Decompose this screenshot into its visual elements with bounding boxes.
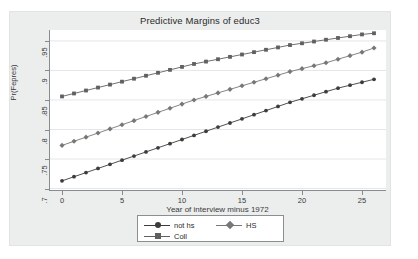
marker-circle-icon xyxy=(276,105,280,109)
x-axis-tick xyxy=(182,191,183,195)
marker-diamond-icon xyxy=(263,76,268,81)
marker-diamond-icon xyxy=(155,110,160,115)
marker-square-icon xyxy=(228,55,232,59)
marker-square-icon xyxy=(204,60,208,64)
plot-svg xyxy=(50,30,386,190)
marker-circle-icon xyxy=(216,125,220,129)
marker-circle-icon xyxy=(96,167,100,171)
x-axis-tick-label: 0 xyxy=(52,196,72,205)
marker-diamond-icon xyxy=(95,130,100,135)
marker-circle-icon xyxy=(72,175,76,179)
marker-circle-icon xyxy=(192,133,196,137)
marker-circle-icon xyxy=(180,138,184,142)
marker-square-icon xyxy=(360,33,364,37)
marker-square-icon xyxy=(288,43,292,47)
marker-circle-icon xyxy=(108,162,112,166)
marker-square-icon xyxy=(144,74,148,78)
marker-diamond-icon xyxy=(311,63,316,68)
x-axis-line xyxy=(49,190,386,191)
marker-diamond-icon xyxy=(191,97,196,102)
marker-circle-icon xyxy=(84,171,88,175)
marker-diamond-icon xyxy=(119,122,124,127)
marker-circle-icon xyxy=(312,93,316,97)
x-axis-tick xyxy=(242,191,243,195)
marker-square-icon xyxy=(240,53,244,57)
plot-area xyxy=(50,30,386,190)
marker-circle-icon xyxy=(240,117,244,121)
marker-diamond-icon xyxy=(71,139,76,144)
marker-square-icon xyxy=(180,65,184,69)
legend-entry-hs[interactable]: HS xyxy=(216,219,256,231)
legend-key-square-icon xyxy=(144,231,170,241)
x-axis-tick xyxy=(302,191,303,195)
marker-diamond-icon xyxy=(287,69,292,74)
marker-square-icon xyxy=(120,80,124,84)
x-axis-tick-label: 25 xyxy=(352,196,372,205)
legend-label-hs: HS xyxy=(246,221,256,230)
marker-square-icon xyxy=(192,62,196,66)
series-line xyxy=(62,33,374,96)
marker-circle-icon xyxy=(252,113,256,117)
marker-diamond-icon xyxy=(107,126,112,131)
x-axis-tick xyxy=(122,191,123,195)
marker-square-icon xyxy=(96,86,100,90)
legend-label-not-hs: not hs xyxy=(174,221,194,230)
marker-square-icon xyxy=(372,31,376,35)
y-axis-tick-label: .85 xyxy=(40,99,49,125)
marker-diamond-icon xyxy=(251,80,256,85)
legend-key-diamond-icon xyxy=(216,220,242,230)
marker-square-icon xyxy=(348,34,352,38)
x-axis-tick-label: 5 xyxy=(112,196,132,205)
marker-diamond-icon xyxy=(203,94,208,99)
marker-diamond-icon xyxy=(83,135,88,140)
marker-square-icon xyxy=(276,46,280,50)
marker-circle-icon xyxy=(144,150,148,154)
marker-diamond-icon xyxy=(167,106,172,111)
marker-circle-icon xyxy=(60,179,64,183)
y-axis-line xyxy=(49,30,50,191)
y-axis-tick-label: .7 xyxy=(40,187,49,213)
marker-circle-icon xyxy=(120,158,124,162)
marker-circle-icon xyxy=(324,90,328,94)
marker-circle-icon xyxy=(360,80,364,84)
marker-diamond-icon xyxy=(359,50,364,55)
chart-legend: not hs HS Coll xyxy=(137,215,284,242)
x-axis-tick-label: 20 xyxy=(292,196,312,205)
marker-circle-icon xyxy=(132,154,136,158)
marker-diamond-icon xyxy=(239,83,244,88)
marker-diamond-icon xyxy=(179,102,184,107)
marker-circle-icon xyxy=(168,142,172,146)
legend-entry-coll[interactable]: Coll xyxy=(144,230,187,242)
marker-diamond-icon xyxy=(347,53,352,58)
marker-diamond-icon xyxy=(59,143,64,148)
marker-diamond-icon xyxy=(323,60,328,65)
marker-circle-icon xyxy=(300,97,304,101)
y-axis-tick-label: .9 xyxy=(40,69,49,95)
marker-square-icon xyxy=(264,48,268,52)
marker-diamond-icon xyxy=(275,73,280,78)
chart-title: Predictive Margins of educ3 xyxy=(9,15,391,26)
y-axis-tick-label: .75 xyxy=(40,158,49,184)
legend-label-coll: Coll xyxy=(174,232,187,241)
marker-square-icon xyxy=(312,40,316,44)
marker-circle-icon xyxy=(204,129,208,133)
x-axis-title: Year of interview minus 1972 xyxy=(49,205,386,214)
marker-diamond-icon xyxy=(371,45,376,50)
marker-square-icon xyxy=(300,41,304,45)
y-axis-title: Pr(Fepres) xyxy=(9,48,18,118)
marker-square-icon xyxy=(324,38,328,42)
legend-key-circle-icon xyxy=(144,220,170,230)
marker-square-icon xyxy=(108,83,112,87)
marker-square-icon xyxy=(252,50,256,54)
y-axis-tick-label: .95 xyxy=(40,39,49,65)
chart-screenshot: Predictive Margins of educ3 .7.75.8.85.9… xyxy=(0,0,418,259)
x-axis-tick-label: 10 xyxy=(172,196,192,205)
x-axis-tick xyxy=(62,191,63,195)
marker-circle-icon xyxy=(264,109,268,113)
x-axis-tick-label: 15 xyxy=(232,196,252,205)
x-axis-tick xyxy=(362,191,363,195)
marker-square-icon xyxy=(168,68,172,72)
marker-circle-icon xyxy=(228,121,232,125)
marker-square-icon xyxy=(336,36,340,40)
marker-circle-icon xyxy=(336,86,340,90)
